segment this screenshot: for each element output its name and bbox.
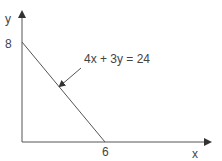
x-intercept-label: 6 (102, 145, 109, 159)
annotation-arrow (60, 68, 81, 86)
equation-label: 4x + 3y = 24 (84, 52, 150, 66)
y-intercept-label: 8 (5, 37, 12, 51)
y-axis-label: y (5, 12, 11, 26)
line-chart: y 8 6 x 4x + 3y = 24 (0, 0, 222, 161)
x-axis-label: x (192, 147, 198, 161)
